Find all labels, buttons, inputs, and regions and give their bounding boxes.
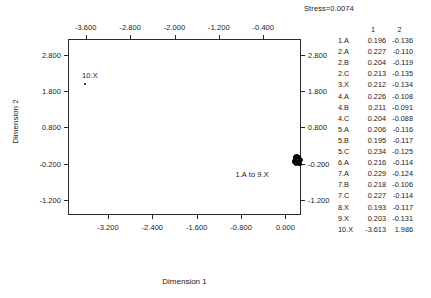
table-row: 4.A0.226-0.108 <box>338 91 413 102</box>
cell-dim1: 0.216 <box>360 157 386 168</box>
cell-name: 4.C <box>338 113 360 124</box>
x-tick-label-top: -2.000 <box>164 23 186 32</box>
y-tick-left <box>64 91 68 92</box>
x-tick-label-bottom: -2.400 <box>142 223 164 232</box>
cell-name: 10.X <box>338 224 360 235</box>
table-row: 7.C0.227-0.114 <box>338 190 413 201</box>
cell-dim2: -0.114 <box>386 190 413 201</box>
cell-name: 9.X <box>338 213 360 224</box>
table-row: 2.C0.213-0.135 <box>338 68 413 79</box>
y-tick-right <box>301 127 305 128</box>
table-row: 8.X0.193-0.117 <box>338 202 413 213</box>
table-row: 5.C0.234-0.125 <box>338 146 413 157</box>
x-tick-top <box>263 35 264 39</box>
table-row: 10.X-3.6131.986 <box>338 224 413 235</box>
cell-name: 6.A <box>338 157 360 168</box>
y-tick-right <box>301 200 305 201</box>
cell-name: 5.B <box>338 135 360 146</box>
cell-dim1: 0.229 <box>360 168 386 179</box>
cell-name: 4.B <box>338 102 360 113</box>
plot-frame <box>68 39 301 215</box>
y-tick-right <box>301 55 305 56</box>
cell-name: 5.C <box>338 146 360 157</box>
cell-dim2: -0.117 <box>386 202 413 213</box>
cell-dim1: 0.227 <box>360 190 386 201</box>
y-tick-left <box>64 55 68 56</box>
header-dim2: 2 <box>386 24 413 35</box>
x-tick-top <box>219 35 220 39</box>
cell-dim1: 0.226 <box>360 91 386 102</box>
x-tick-label-bottom: 0.000 <box>276 223 295 232</box>
cell-dim1: 0.204 <box>360 113 386 124</box>
table-row: 1.A0.196-0.136 <box>338 35 413 46</box>
cell-name: 8.X <box>338 202 360 213</box>
y-axis-title: Dimension 2 <box>11 77 20 167</box>
cell-name: 3.X <box>338 79 360 90</box>
data-point-cluster <box>290 155 304 167</box>
x-tick-label-top: -1.200 <box>208 23 230 32</box>
mds-scatter-figure: Stress=0.0074 -3.600-2.800-2.000-1.200-0… <box>0 0 431 298</box>
cell-name: 5.A <box>338 124 360 135</box>
cell-dim2: -0.110 <box>386 46 413 57</box>
cell-dim1: 0.218 <box>360 179 386 190</box>
cell-name: 1.A <box>338 35 360 46</box>
y-tick-label-right: 0.800 <box>308 123 327 132</box>
y-tick-label-right: -1.200 <box>308 195 330 204</box>
y-tick-label-right: 1.800 <box>308 87 327 96</box>
cell-dim1: 0.203 <box>360 213 386 224</box>
cell-dim2: -0.119 <box>386 57 413 68</box>
coordinates-table-body: 1.A0.196-0.1362.A0.227-0.1102.B0.204-0.1… <box>338 35 413 235</box>
cell-name: 2.B <box>338 57 360 68</box>
cell-dim2: -0.106 <box>386 179 413 190</box>
table-row: 5.B0.195-0.117 <box>338 135 413 146</box>
table-row: 6.A0.216-0.114 <box>338 157 413 168</box>
table-header-row: 1 2 <box>338 24 413 35</box>
table-row: 2.B0.204-0.119 <box>338 57 413 68</box>
header-name <box>338 24 360 35</box>
cell-dim2: -0.124 <box>386 168 413 179</box>
table-row: 7.B0.218-0.106 <box>338 179 413 190</box>
coordinates-table: 1 2 1.A0.196-0.1362.A0.227-0.1102.B0.204… <box>338 24 413 235</box>
coordinates-table-head: 1 2 <box>338 24 413 35</box>
cell-dim2: -0.117 <box>386 135 413 146</box>
x-tick-bottom <box>152 215 153 219</box>
cell-dim2: -0.108 <box>386 91 413 102</box>
cell-dim1: 0.212 <box>360 79 386 90</box>
cell-dim1: 0.193 <box>360 202 386 213</box>
table-row: 2.A0.227-0.110 <box>338 46 413 57</box>
x-tick-label-top: -2.800 <box>119 23 141 32</box>
cell-name: 7.B <box>338 179 360 190</box>
cell-dim1: 0.213 <box>360 68 386 79</box>
cell-dim2: -0.136 <box>386 35 413 46</box>
header-dim1: 1 <box>360 24 386 35</box>
cell-dim1: 0.227 <box>360 46 386 57</box>
cell-name: 4.A <box>338 91 360 102</box>
x-tick-label-bottom: -3.200 <box>97 223 119 232</box>
cell-dim2: -0.116 <box>386 124 413 135</box>
cell-dim1: 0.206 <box>360 124 386 135</box>
cell-dim2: -0.131 <box>386 213 413 224</box>
table-row: 3.X0.212-0.134 <box>338 79 413 90</box>
x-tick-top <box>130 35 131 39</box>
cell-dim2: -0.134 <box>386 79 413 90</box>
x-tick-bottom <box>108 215 109 219</box>
y-tick-right <box>301 91 305 92</box>
coordinates-table-grid: 1 2 1.A0.196-0.1362.A0.227-0.1102.B0.204… <box>338 24 413 235</box>
cell-dim1: -3.613 <box>360 224 386 235</box>
stress-annotation: Stress=0.0074 <box>304 4 354 13</box>
cell-dim2: -0.114 <box>386 157 413 168</box>
cell-dim1: 0.211 <box>360 102 386 113</box>
x-tick-label-bottom: -1.600 <box>186 223 208 232</box>
y-tick-left <box>64 127 68 128</box>
x-tick-top <box>175 35 176 39</box>
x-tick-label-bottom: -0.800 <box>230 223 252 232</box>
point-annotation-label: 10.X <box>82 71 98 80</box>
y-tick-label-right: -0.200 <box>308 159 330 168</box>
cell-name: 2.C <box>338 68 360 79</box>
x-tick-label-top: -0.400 <box>252 23 274 32</box>
cell-dim2: -0.091 <box>386 102 413 113</box>
table-row: 4.B0.211-0.091 <box>338 102 413 113</box>
x-tick-bottom <box>241 215 242 219</box>
cell-name: 7.A <box>338 168 360 179</box>
y-tick-label-left: 1.800 <box>42 87 61 96</box>
